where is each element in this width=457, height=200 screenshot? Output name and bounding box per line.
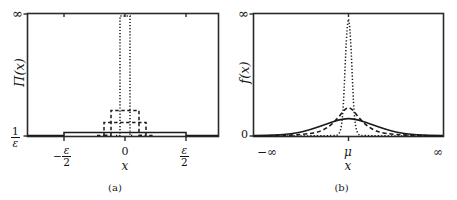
panel-a-caption: (a) [0, 182, 230, 193]
fraction-denominator: 2 [180, 156, 189, 168]
panel-b-y-tick-infinity: ∞ [238, 7, 249, 20]
panel-a-x-tick-epsilon-over-2: ε 2 [180, 145, 189, 167]
panel-b-x-tick-positive-infinity: ∞ [433, 146, 443, 158]
panel-b: ∞ 0 f(x) −∞ μ ∞ x (b) [226, 0, 457, 200]
panel-b-caption: (b) [226, 182, 457, 193]
panel-a-y-axis-label: Π(x) [13, 45, 26, 101]
panel-b-x-axis-label: x [345, 160, 352, 172]
figure-container: ∞ 1 ε Π(x) − ε 2 0 ε 2 x (a) [0, 0, 457, 200]
panel-b-x-tick-negative-infinity: −∞ [257, 146, 277, 158]
fraction-numerator: ε [180, 145, 189, 156]
fraction-numerator: 1 [11, 126, 20, 137]
panel-b-x-tick-mu: μ [344, 146, 352, 158]
panel-a-x-tick-neg-epsilon-over-2: − ε 2 [53, 145, 71, 167]
panel-a-x-axis-label: x [122, 160, 129, 172]
panel-b-y-tick-zero: 0 [241, 129, 248, 140]
panel-b-plot [226, 0, 457, 200]
minus-sign: − [53, 151, 62, 162]
panel-a-y-tick-one-over-epsilon: 1 ε [11, 126, 20, 148]
panel-a-y-tick-infinity: ∞ [12, 7, 23, 20]
fraction-denominator: ε [11, 137, 20, 149]
fraction-numerator: ε [62, 145, 71, 156]
panel-a-x-tick-zero: 0 [122, 146, 129, 157]
panel-a: ∞ 1 ε Π(x) − ε 2 0 ε 2 x (a) [0, 0, 230, 200]
fraction-denominator: 2 [62, 156, 71, 168]
panel-a-axes-frame [28, 14, 219, 137]
panel-a-plot [0, 0, 230, 200]
panel-b-y-axis-label: f(x) [238, 45, 251, 101]
